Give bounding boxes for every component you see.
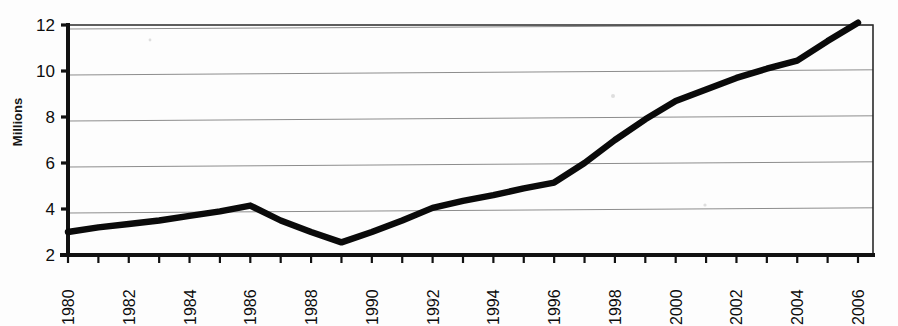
xtick-label-1980: 1980 [60, 289, 77, 325]
gridline-y-6 [68, 162, 873, 167]
xtick-label-1998: 1998 [607, 289, 624, 325]
gridlines [68, 25, 873, 213]
ytick-label-12: 12 [36, 16, 55, 35]
xtick-label-2004: 2004 [789, 289, 806, 325]
xtick-label-2000: 2000 [668, 289, 685, 325]
plot-border [68, 25, 873, 255]
xtick-label-1982: 1982 [121, 289, 138, 325]
xtick-label-1994: 1994 [485, 289, 502, 325]
scan-artifact-0 [611, 94, 615, 98]
data-line-millions [68, 23, 858, 243]
chart-canvas: 2468101219801982198419861988199019921994… [0, 0, 898, 326]
ytick-label-8: 8 [46, 108, 55, 127]
line-chart: 2468101219801982198419861988199019921994… [0, 0, 898, 326]
scan-artifact-1 [703, 203, 706, 206]
xtick-label-2006: 2006 [850, 289, 867, 325]
xtick-label-1996: 1996 [546, 289, 563, 325]
scan-artifact-3 [149, 39, 152, 42]
gridline-y-4 [68, 208, 873, 213]
ytick-label-2: 2 [46, 246, 55, 265]
ytick-label-10: 10 [36, 62, 55, 81]
scan-artifact-2 [428, 298, 433, 303]
xtick-label-1992: 1992 [425, 289, 442, 325]
xtick-label-1986: 1986 [242, 289, 259, 325]
ytick-label-6: 6 [46, 154, 55, 173]
xtick-label-1988: 1988 [303, 289, 320, 325]
gridline-y-8 [68, 116, 873, 121]
ytick-label-4: 4 [46, 200, 55, 219]
xtick-label-1990: 1990 [364, 289, 381, 325]
xtick-label-2002: 2002 [728, 289, 745, 325]
y-axis-title: Millions [10, 98, 25, 146]
xtick-label-1984: 1984 [182, 289, 199, 325]
